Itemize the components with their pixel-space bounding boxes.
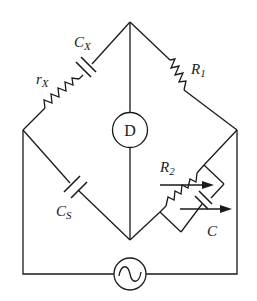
detector-label: D <box>124 122 136 139</box>
bridge-circuit-diagram: rX CX R1 D CS <box>0 0 257 301</box>
label-cs: CS <box>56 203 72 221</box>
resistor-rx <box>44 78 79 108</box>
resistor-r1 <box>170 59 186 90</box>
label-r2: R2 <box>159 159 175 177</box>
detector-branch: D <box>113 22 148 240</box>
label-c: C <box>207 223 218 239</box>
resistor-r2 <box>166 173 197 206</box>
label-rx: rX <box>36 71 50 89</box>
label-cx: CX <box>74 34 92 52</box>
branch-top-right <box>130 22 237 130</box>
branch-bottom-left <box>23 130 130 240</box>
ac-sine-icon <box>119 267 141 282</box>
label-r1: R1 <box>190 61 206 79</box>
branch-bottom-right <box>130 130 237 240</box>
capacitor-c <box>195 191 212 209</box>
capacitor-cx <box>76 57 96 77</box>
